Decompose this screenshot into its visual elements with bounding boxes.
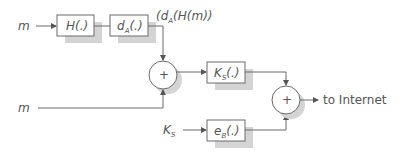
arrow-m-to-combiner [38, 90, 163, 108]
svg-text:+: + [282, 93, 292, 107]
symmetric-encrypt-block: KS(.) [207, 62, 253, 90]
svg-text:dA(.): dA(.) [117, 19, 143, 35]
public-encrypt-block: eB(.) [207, 120, 253, 148]
combiner-first: + [149, 61, 182, 94]
session-key-input: KS [163, 123, 176, 139]
svg-text:+: + [159, 68, 169, 82]
message-input-bottom: m [18, 101, 30, 115]
svg-text:KS(.): KS(.) [214, 66, 240, 82]
hash-block: H(.) [57, 15, 102, 43]
signature-label: (dA(H(m)) [156, 9, 213, 25]
svg-text:eB(.): eB(.) [214, 124, 239, 140]
svg-text:H(.): H(.) [66, 19, 88, 33]
output-label: to Internet [323, 93, 387, 107]
sign-block: dA(.) [110, 15, 156, 43]
pgp-sender-diagram: m H(.) dA(.) (dA(H(m)) + m KS(.) KS e [0, 0, 401, 155]
message-input-top: m [18, 19, 30, 33]
combiner-second: + [272, 86, 305, 119]
